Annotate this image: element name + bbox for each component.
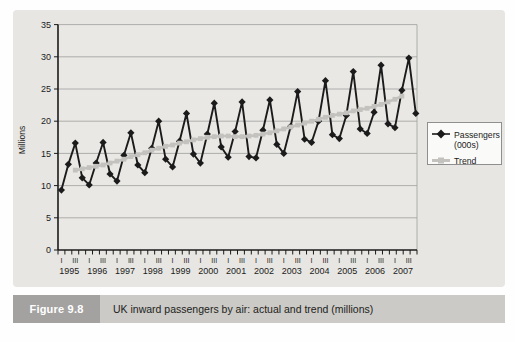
- year-tick-label: 2001: [226, 266, 246, 276]
- year-tick-label: 2006: [365, 266, 385, 276]
- year-tick-label: 1998: [143, 266, 163, 276]
- trend-marker: [101, 163, 106, 168]
- trend-marker: [351, 108, 356, 113]
- quarter-tick-label: III: [322, 256, 328, 265]
- trend-marker: [177, 141, 182, 146]
- trend-marker: [302, 121, 307, 126]
- trend-marker: [267, 130, 272, 135]
- trend-marker: [128, 154, 133, 159]
- trend-marker: [122, 157, 127, 162]
- trend-marker: [94, 164, 99, 169]
- trend-marker: [386, 99, 391, 104]
- trend-marker: [281, 127, 286, 132]
- quarter-tick-label: I: [311, 256, 313, 265]
- y-tick-label: 35: [41, 20, 51, 30]
- trend-marker: [170, 143, 175, 148]
- trend-marker: [393, 97, 398, 102]
- trend-marker: [400, 94, 405, 99]
- trend-marker: [295, 123, 300, 128]
- quarter-tick-label: I: [60, 256, 62, 265]
- year-tick-label: 1997: [115, 266, 135, 276]
- figure-label: Figure 9.8: [30, 303, 84, 315]
- quarter-tick-label: I: [172, 256, 174, 265]
- y-tick-label: 0: [46, 245, 51, 255]
- trend-marker: [156, 146, 161, 151]
- quarter-tick-label: I: [283, 256, 285, 265]
- page: 05101520253035MillionsIIII1995IIII1996II…: [0, 0, 515, 342]
- trend-marker: [226, 134, 231, 139]
- trend-marker: [219, 134, 224, 139]
- trend-legend-square-icon: [438, 158, 444, 164]
- line-chart: 05101520253035MillionsIIII1995IIII1996II…: [13, 10, 505, 287]
- y-tick-label: 20: [41, 116, 51, 126]
- y-axis-title: Millions: [17, 126, 27, 154]
- year-tick-label: 2003: [282, 266, 302, 276]
- trend-marker: [344, 110, 349, 115]
- trend-marker: [212, 134, 217, 139]
- trend-marker: [163, 144, 168, 149]
- quarter-tick-label: III: [239, 256, 245, 265]
- trend-marker: [233, 134, 238, 139]
- trend-marker: [330, 113, 335, 118]
- year-tick-label: 2005: [337, 266, 357, 276]
- quarter-tick-label: III: [211, 256, 217, 265]
- trend-marker: [73, 168, 78, 173]
- quarter-tick-label: I: [116, 256, 118, 265]
- quarter-tick-label: III: [406, 256, 412, 265]
- year-tick-label: 2000: [198, 266, 218, 276]
- trend-marker: [337, 112, 342, 117]
- trend-marker: [115, 159, 120, 164]
- trend-marker: [261, 132, 266, 137]
- quarter-tick-label: I: [255, 256, 257, 265]
- year-tick-label: 2007: [393, 266, 413, 276]
- quarter-tick-label: I: [394, 256, 396, 265]
- trend-marker: [240, 134, 245, 139]
- figure-panel: 05101520253035MillionsIIII1995IIII1996II…: [13, 10, 505, 287]
- year-tick-label: 1995: [59, 266, 79, 276]
- quarter-tick-label: III: [128, 256, 134, 265]
- quarter-tick-label: III: [156, 256, 162, 265]
- year-tick-label: 2002: [254, 266, 274, 276]
- trend-marker: [142, 150, 147, 155]
- y-tick-label: 15: [41, 149, 51, 159]
- year-tick-label: 1996: [87, 266, 107, 276]
- quarter-tick-label: I: [338, 256, 340, 265]
- trend-marker: [372, 104, 377, 109]
- trend-marker: [316, 117, 321, 122]
- year-tick-label: 2004: [309, 266, 329, 276]
- trend-marker: [184, 139, 189, 144]
- quarter-tick-label: III: [378, 256, 384, 265]
- caption-bar: UK inward passengers by air: actual and …: [100, 295, 505, 323]
- quarter-tick-label: I: [88, 256, 90, 265]
- trend-marker: [80, 166, 85, 171]
- trend-marker: [254, 133, 259, 138]
- trend-marker: [135, 152, 140, 157]
- trend-marker: [288, 125, 293, 130]
- legend-label-passengers-units: (000s): [454, 140, 479, 150]
- legend-label-trend: Trend: [454, 156, 477, 166]
- trend-marker: [309, 119, 314, 124]
- trend-marker: [149, 148, 154, 153]
- legend-label-passengers: Passengers: [454, 130, 501, 140]
- trend-marker: [247, 134, 252, 139]
- y-tick-label: 5: [46, 213, 51, 223]
- figure-label-box: Figure 9.8: [13, 295, 100, 323]
- quarter-tick-label: III: [100, 256, 106, 265]
- trend-marker: [274, 128, 279, 133]
- y-tick-label: 25: [41, 84, 51, 94]
- trend-marker: [198, 136, 203, 141]
- trend-marker: [358, 107, 363, 112]
- quarter-tick-label: III: [295, 256, 301, 265]
- year-tick-label: 1999: [171, 266, 191, 276]
- figure-caption: UK inward passengers by air: actual and …: [113, 303, 373, 315]
- quarter-tick-label: I: [366, 256, 368, 265]
- legend: Passengers (000s) Trend: [428, 123, 502, 167]
- quarter-tick-label: III: [350, 256, 356, 265]
- trend-marker: [108, 161, 113, 166]
- trend-marker: [191, 137, 196, 142]
- quarter-tick-label: I: [199, 256, 201, 265]
- trend-marker: [379, 102, 384, 107]
- y-tick-label: 10: [41, 181, 51, 191]
- caption-row: Figure 9.8 UK inward passengers by air: …: [13, 295, 505, 323]
- y-tick-label: 30: [41, 52, 51, 62]
